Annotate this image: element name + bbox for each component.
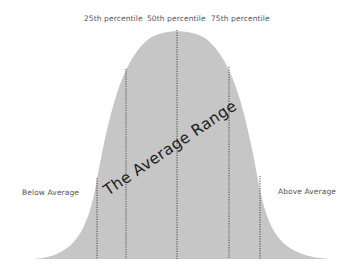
bell-curve-diagram: The Average Range 25th percentile 50th p…: [0, 0, 355, 267]
label-25th-percentile: 25th percentile: [84, 14, 143, 23]
label-above-average: Above Average: [278, 187, 336, 196]
label-below-average: Below Average: [22, 188, 79, 197]
label-75th-percentile: 75th percentile: [211, 14, 270, 23]
label-50th-percentile: 50th percentile: [147, 14, 206, 23]
bell-curve-graphic: The Average Range: [0, 0, 355, 267]
